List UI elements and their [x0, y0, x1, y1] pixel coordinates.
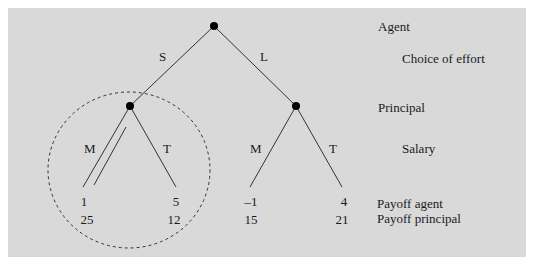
- branch-label-S: S: [159, 50, 166, 63]
- payoff-agent-4: 4: [329, 195, 359, 208]
- principal-node-right: [292, 102, 300, 110]
- legend-choice-of-effort: Choice of effort: [402, 52, 485, 65]
- edge-L: [214, 26, 296, 106]
- legend-payoff-agent: Payoff agent: [377, 197, 443, 210]
- legend-agent: Agent: [378, 20, 410, 33]
- payoff-agent-2: 5: [161, 195, 191, 208]
- legend-payoff-principal: Payoff principal: [377, 212, 461, 225]
- principal-node-left: [126, 102, 134, 110]
- payoff-principal-4: 21: [327, 213, 357, 226]
- payoff-principal-2: 12: [159, 213, 189, 226]
- branch-label-left-M: M: [84, 142, 96, 155]
- branch-label-L: L: [260, 50, 268, 63]
- payoff-principal-1: 25: [72, 213, 102, 226]
- branch-label-right-M: M: [250, 142, 262, 155]
- edge-S: [130, 26, 214, 106]
- agent-node: [210, 22, 218, 30]
- legend-principal: Principal: [378, 101, 425, 114]
- payoff-agent-3: –1: [236, 195, 266, 208]
- legend-salary: Salary: [402, 142, 435, 155]
- payoff-agent-1: 1: [69, 195, 99, 208]
- branch-label-right-T: T: [329, 142, 337, 155]
- payoff-principal-3: 15: [236, 213, 266, 226]
- edge-left-M-double: [94, 127, 126, 185]
- branch-label-left-T: T: [163, 142, 171, 155]
